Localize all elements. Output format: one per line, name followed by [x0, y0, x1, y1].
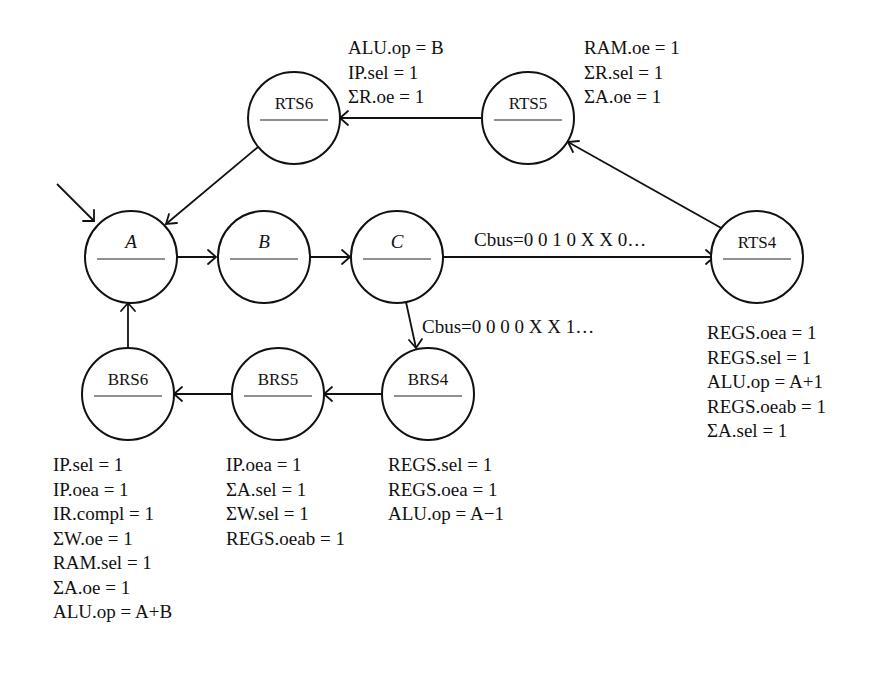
annotation-line: ΣW.sel = 1: [226, 502, 345, 527]
annotation-line: REGS.oeab = 1: [707, 395, 826, 420]
annotation-line: REGS.oea = 1: [388, 478, 504, 503]
node-brs6: BRS6: [82, 348, 174, 440]
annotation-line: IP.oea = 1: [226, 453, 345, 478]
edge-rts4-to-rts5: [568, 142, 723, 229]
node-label: B: [258, 231, 270, 252]
node-label: BRS4: [408, 370, 449, 389]
node-label: RTS4: [738, 233, 777, 252]
annotation-line: REGS.oeab = 1: [226, 527, 345, 552]
annotation-line: ALU.op = A+1: [707, 370, 826, 395]
annotation-line: ALU.op = A−1: [388, 502, 504, 527]
node-label: BRS5: [258, 370, 299, 389]
annotation-line: RAM.oe = 1: [584, 36, 680, 61]
node-label: RTS6: [275, 94, 314, 113]
annotation-line: IR.compl = 1: [53, 502, 172, 527]
annotation-line: ΣA.oe = 1: [53, 576, 172, 601]
annotation-brs5: IP.oea = 1 ΣA.sel = 1 ΣW.sel = 1 REGS.oe…: [226, 453, 345, 551]
node-rts6: RTS6: [248, 72, 340, 164]
annotation-line: ΣR.sel = 1: [584, 61, 680, 86]
annotation-line: ALU.op = B: [348, 36, 444, 61]
annotation-line: ALU.op = A+B: [53, 600, 172, 625]
annotation-line: REGS.sel = 1: [388, 453, 504, 478]
edge-rts6-to-a: [166, 147, 258, 224]
node-brs4: BRS4: [382, 348, 474, 440]
node-label: BRS6: [108, 370, 149, 389]
node-label: RTS5: [509, 94, 548, 113]
node-b: B: [218, 211, 310, 303]
annotation-rts5: RAM.oe = 1 ΣR.sel = 1 ΣA.oe = 1: [584, 36, 680, 110]
annotation-rts6: ALU.op = B IP.sel = 1 ΣR.oe = 1: [348, 36, 444, 110]
node-rts5: RTS5: [482, 72, 574, 164]
annotation-line: ΣW.oe = 1: [53, 527, 172, 552]
annotation-line: IP.oea = 1: [53, 478, 172, 503]
node-label: A: [123, 231, 137, 252]
edge-start-to-a: [57, 184, 94, 221]
annotation-line: RAM.sel = 1: [53, 551, 172, 576]
node-a: A: [85, 211, 177, 303]
annotation-line: ΣA.oe = 1: [584, 85, 680, 110]
annotation-line: ΣR.oe = 1: [348, 85, 444, 110]
annotation-line: ΣA.sel = 1: [707, 419, 826, 444]
edge-label-c-to-brs4: Cbus=0 0 0 0 X X 1…: [422, 316, 594, 338]
node-rts4: RTS4: [711, 211, 803, 303]
annotation-rts4: REGS.oea = 1 REGS.sel = 1 ALU.op = A+1 R…: [707, 321, 826, 444]
node-brs5: BRS5: [232, 348, 324, 440]
annotation-line: IP.sel = 1: [348, 61, 444, 86]
annotation-line: REGS.oea = 1: [707, 321, 826, 346]
node-c: C: [351, 211, 443, 303]
annotation-brs4: REGS.sel = 1 REGS.oea = 1 ALU.op = A−1: [388, 453, 504, 527]
annotation-line: ΣA.sel = 1: [226, 478, 345, 503]
annotation-line: IP.sel = 1: [53, 453, 172, 478]
edge-label-c-to-rts4: Cbus=0 0 1 0 X X 0…: [474, 229, 646, 251]
node-label: C: [391, 231, 404, 252]
annotation-line: REGS.sel = 1: [707, 346, 826, 371]
annotation-brs6: IP.sel = 1 IP.oea = 1 IR.compl = 1 ΣW.oe…: [53, 453, 172, 625]
